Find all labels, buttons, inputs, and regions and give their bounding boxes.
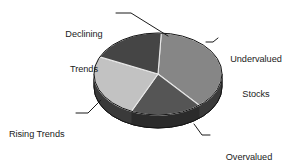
pie-chart: Declining Trends Undervalued Stocks Over… — [0, 0, 300, 164]
leader-line-overvalued — [194, 124, 210, 135]
slice-label-declining-line2: Trends — [53, 64, 115, 76]
slice-label-rising-line1: Rising Trends — [9, 129, 95, 141]
slice-label-overvalued-line1: Overvalued — [212, 152, 286, 164]
slice-label-declining: Declining Trends — [53, 6, 115, 98]
slice-label-declining-line1: Declining — [53, 29, 115, 41]
leader-line-undervalued — [206, 38, 218, 42]
slice-label-undervalued-line1: Undervalued — [220, 54, 292, 66]
slice-label-undervalued-line2: Stocks — [220, 89, 292, 101]
slice-label-overvalued: Overvalued Stocks — [212, 129, 286, 164]
slice-label-undervalued: Undervalued Stocks — [220, 31, 292, 123]
slice-label-rising: Rising Trends — [9, 106, 95, 164]
